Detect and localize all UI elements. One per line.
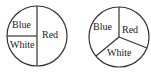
spinner-1: Blue White Red bbox=[7, 6, 67, 66]
spinner-1-label-blue: Blue bbox=[12, 19, 31, 30]
spinner-2-label-red: Red bbox=[122, 24, 138, 35]
spinner-2-label-blue: Blue bbox=[93, 21, 112, 32]
spinner-1-label-white: White bbox=[10, 39, 35, 50]
spinner-diagrams: Blue White Red Blue Red White bbox=[0, 0, 151, 75]
spinner-1-label-red: Red bbox=[42, 29, 58, 40]
spinner-2: Blue Red White bbox=[89, 7, 149, 67]
spinner-2-label-white: White bbox=[107, 47, 132, 58]
